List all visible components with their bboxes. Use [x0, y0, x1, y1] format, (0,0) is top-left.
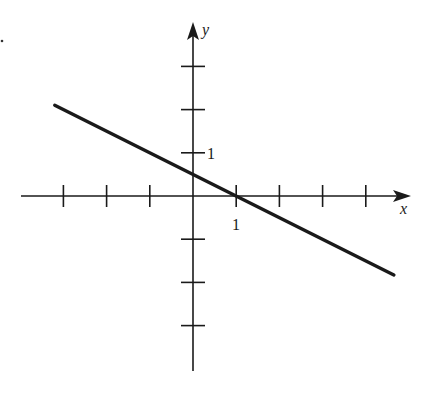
y-tick-label-1: 1: [207, 145, 215, 162]
x-axis-label: x: [399, 200, 407, 217]
x-tick-label-1: 1: [232, 216, 240, 233]
coordinate-plane: x y 1 1: [0, 0, 423, 394]
data-line: [55, 105, 394, 275]
y-axis-label: y: [200, 21, 210, 39]
marker-dot: [1, 40, 4, 43]
